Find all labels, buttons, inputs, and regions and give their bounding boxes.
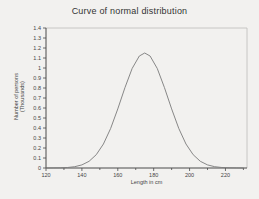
- y-tick-label: 0: [38, 165, 41, 171]
- x-tick-label: 180: [149, 172, 158, 178]
- y-tick-label: 0.7: [33, 95, 41, 101]
- x-tick-label: 220: [221, 172, 230, 178]
- x-tick-label: 160: [113, 172, 122, 178]
- y-tick-label: 0.1: [33, 155, 41, 161]
- normal-curve: [46, 53, 243, 168]
- y-tick-label: 1.4: [33, 25, 41, 31]
- x-tick-label: 200: [185, 172, 194, 178]
- y-tick-label: 0.3: [33, 135, 41, 141]
- x-tick-label: 120: [41, 172, 50, 178]
- y-tick-label: 1: [38, 65, 41, 71]
- y-tick-label: 1.3: [33, 35, 41, 41]
- x-axis-title: Length in cm: [46, 179, 247, 185]
- y-tick-label: 1.2: [33, 45, 41, 51]
- x-tick-label: 140: [77, 172, 86, 178]
- y-tick-label: 1.1: [33, 55, 41, 61]
- plot-area: 00.10.20.30.40.50.60.70.80.911.11.21.31.…: [0, 0, 259, 199]
- y-tick-label: 0.5: [33, 115, 41, 121]
- plot-border: [46, 28, 247, 168]
- y-tick-label: 0.9: [33, 75, 41, 81]
- y-tick-label: 0.2: [33, 145, 41, 151]
- y-tick-label: 0.4: [33, 125, 41, 131]
- y-tick-label: 0.6: [33, 105, 41, 111]
- y-tick-label: 0.8: [33, 85, 41, 91]
- chart-window: Curve of normal distribution Number of p…: [0, 0, 259, 199]
